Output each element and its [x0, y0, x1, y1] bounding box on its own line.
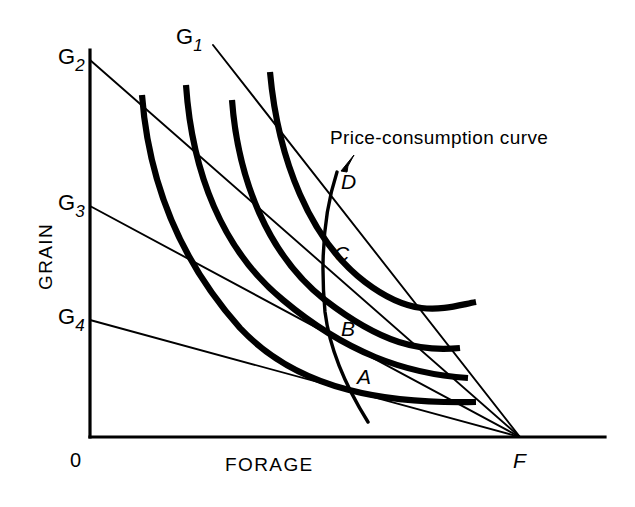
budget-label-g1: G1: [176, 26, 203, 48]
budget-label-g4-subscript: 4: [75, 316, 84, 335]
y-axis-title: GRAIN: [36, 223, 55, 290]
point-label-d: D: [341, 171, 356, 192]
budget-line-g2: [90, 60, 520, 437]
chart-canvas: [0, 0, 635, 507]
price-consumption-curve-annotation: Price-consumption curve: [330, 128, 548, 147]
point-label-a: A: [357, 366, 371, 387]
budget-label-g2: G2: [58, 46, 85, 68]
point-label-c: C: [334, 243, 349, 264]
x-axis-title: FORAGE: [225, 455, 314, 474]
budget-label-g4: G4: [58, 306, 85, 328]
budget-label-g1-base: G: [176, 24, 193, 49]
budget-label-g3-subscript: 3: [75, 202, 84, 221]
point-label-b: B: [341, 318, 355, 339]
x-endpoint-label-f: F: [513, 450, 526, 471]
budget-label-g2-base: G: [58, 44, 75, 69]
indifference-curves-group: [142, 72, 476, 402]
price-consumption-curve-figure: G1 G2 G3 G4 A B C D Price-consumption cu…: [0, 0, 635, 507]
budget-label-g4-base: G: [58, 304, 75, 329]
budget-label-g1-subscript: 1: [193, 36, 202, 55]
origin-label: 0: [70, 450, 81, 470]
budget-label-g3-base: G: [58, 190, 75, 215]
budget-label-g2-subscript: 2: [75, 56, 84, 75]
budget-label-g3: G3: [58, 192, 85, 214]
